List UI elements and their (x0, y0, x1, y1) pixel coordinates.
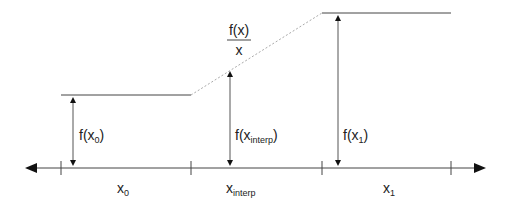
axis-right-arrow-icon (474, 163, 486, 173)
axis-left-arrow-icon (25, 163, 37, 173)
interpolation-diagram: f(x) x f(x0) f(xinterp) f(x1) x0 xinterp… (0, 0, 511, 205)
f-x1-arrow (335, 15, 341, 166)
x0-label: x0 (117, 180, 129, 198)
slope-label: f(x) x (227, 22, 251, 58)
f-xinterp-arrow (227, 71, 233, 166)
f-x0-arrow (70, 97, 76, 166)
interpolation-dashed-line (191, 13, 322, 95)
x-axis (25, 161, 486, 175)
slope-numerator: f(x) (229, 22, 249, 38)
xinterp-label: xinterp (226, 180, 256, 198)
slope-denominator: x (236, 42, 243, 58)
x1-label: x1 (383, 180, 395, 198)
f-x1-label: f(x1) (343, 127, 368, 145)
f-xinterp-label: f(xinterp) (235, 127, 278, 145)
f-x0-label: f(x0) (79, 127, 104, 145)
